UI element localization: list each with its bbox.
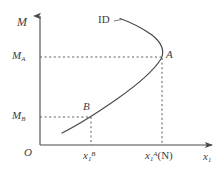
x-tick-label-xb: x1B xyxy=(83,150,95,162)
id-curve xyxy=(62,19,163,134)
origin-label: O xyxy=(24,147,32,158)
point-label-b: B xyxy=(83,101,90,112)
figure-graphics xyxy=(0,0,224,176)
figure-canvas: M MA MB O ID A B x1B x1A(N) x1 xyxy=(0,0,224,176)
x-tick-label-xa: x1A(N) xyxy=(145,150,173,162)
y-tick-label-ma: MA xyxy=(12,50,25,62)
y-axis-label: M xyxy=(17,16,27,28)
x-axis-label: x1 xyxy=(203,151,211,163)
id-curve-label: ID xyxy=(98,14,110,25)
y-tick-label-mb: MB xyxy=(12,110,25,122)
point-label-a: A xyxy=(166,49,173,60)
id-leader-line xyxy=(114,19,122,21)
